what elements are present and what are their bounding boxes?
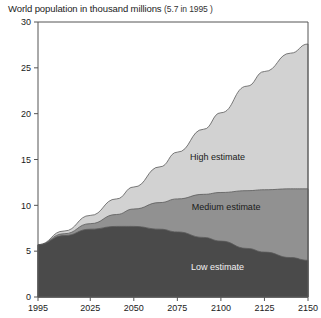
plot-svg: 051015202530 199520252050207521002125215… (0, 0, 321, 318)
band-label-low: Low estimate (191, 262, 244, 272)
x-tick-label: 2050 (124, 303, 144, 313)
y-tick-label: 15 (21, 155, 31, 165)
y-axis-ticks: 051015202530 (21, 17, 38, 302)
y-tick-label: 30 (21, 17, 31, 27)
x-axis-ticks: 1995202520502075210021252150 (28, 297, 318, 313)
y-tick-label: 5 (26, 246, 31, 256)
population-area-chart: World population in thousand millions (5… (0, 0, 321, 318)
x-tick-label: 1995 (28, 303, 48, 313)
y-tick-label: 10 (21, 201, 31, 211)
x-tick-label: 2100 (211, 303, 231, 313)
band-label-medium: Medium estimate (192, 202, 261, 212)
x-tick-label: 2075 (167, 303, 187, 313)
y-tick-label: 0 (26, 292, 31, 302)
band-label-high: High estimate (190, 152, 245, 162)
y-tick-label: 20 (21, 109, 31, 119)
x-tick-label: 2150 (298, 303, 318, 313)
y-tick-label: 25 (21, 63, 31, 73)
x-tick-label: 2125 (254, 303, 274, 313)
x-tick-label: 2025 (80, 303, 100, 313)
